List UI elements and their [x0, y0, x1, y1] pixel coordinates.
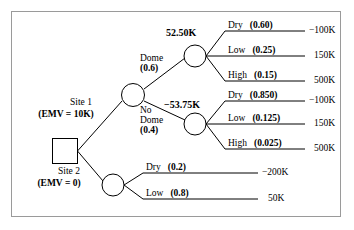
dome-branch-prob: (0.6) — [140, 64, 163, 74]
nodome-payoff-low: 150K — [314, 119, 335, 129]
dome-outcome-dry-prob: (0.60) — [250, 21, 273, 31]
nodome-outcome-high-prob: (0.025) — [254, 139, 282, 149]
decision-tree-figure: Site 1 (EMV = 10K) Site 2 (EMV = 0) Dome… — [0, 0, 354, 230]
site2-label: Site 2 — [34, 167, 104, 177]
site2-label-name: Site 2 — [58, 166, 80, 176]
dome-payoff-high: 500K — [314, 76, 335, 86]
site1-label: Site 1 — [41, 98, 121, 108]
nodome-payoff-high: 500K — [314, 144, 335, 154]
site2-payoff-low: 50K — [268, 194, 284, 204]
dome-outcome-dry-label: Dry (0.60) — [228, 21, 273, 31]
nodome-outcome-high-name: High — [228, 139, 247, 149]
site2-payoff-dry: −200K — [262, 168, 288, 178]
edge-nodome-high — [206, 124, 225, 149]
dome-payoff-dry: −100K — [309, 26, 335, 36]
nodome-outcome-dry-label: Dry (0.850) — [228, 91, 277, 101]
nodome-node-value-text: −53.75K — [164, 99, 200, 110]
site2-outcome-dry-label: Dry (0.2) — [146, 163, 186, 173]
site1-chance-circle — [122, 84, 145, 107]
nodome-node-value: −53.75K — [164, 100, 200, 111]
site1-emv: (EMV = 10K) — [11, 110, 121, 120]
edge-dome-high — [206, 56, 225, 81]
edge-dome-dry — [206, 31, 225, 56]
site2-outcome-dry-name: Dry — [146, 163, 161, 173]
nodome-payoff-low-text: 150K — [314, 118, 335, 128]
nodome-outcome-high-label: High (0.025) — [228, 139, 282, 149]
nodome-outcome-dry-name: Dry — [228, 91, 243, 101]
nodome-payoff-dry-text: −100K — [309, 95, 335, 105]
nodome-outcome-low-prob: (0.125) — [252, 114, 280, 124]
dome-outcome-low-label: Low (0.25) — [228, 46, 275, 56]
dome-chance-circle — [184, 45, 206, 67]
dome-payoff-dry-text: −100K — [309, 25, 335, 35]
edge-site2-dry — [124, 173, 143, 185]
nodome-outcome-low-label: Low (0.125) — [228, 114, 280, 124]
site2-payoff-low-text: 50K — [268, 193, 284, 203]
nodome-outcome-dry-prob: (0.850) — [250, 91, 278, 101]
site2-outcome-low-prob: (0.8) — [170, 189, 188, 199]
dome-outcome-high-name: High — [228, 71, 247, 81]
site2-emv: (EMV = 0) — [14, 179, 104, 189]
site2-chance-circle — [102, 174, 124, 196]
nodome-outcome-low-name: Low — [228, 114, 245, 124]
nodome-payoff-dry: −100K — [309, 96, 335, 106]
dome-outcome-low-prob: (0.25) — [252, 46, 275, 56]
dome-node-value-text: 52.50K — [166, 27, 196, 38]
site1-label-name: Site 1 — [70, 97, 92, 107]
site1-emv-value: (EMV = 10K) — [38, 109, 93, 119]
nodome-branch-label: No Dome (0.4) — [140, 106, 163, 136]
nodome-payoff-high-text: 500K — [314, 143, 335, 153]
dome-payoff-high-text: 500K — [314, 75, 335, 85]
nodome-branch-prob: (0.4) — [140, 126, 163, 136]
site2-outcome-low-name: Low — [146, 189, 163, 199]
nodome-chance-circle — [184, 113, 206, 135]
site2-payoff-dry-text: −200K — [262, 167, 288, 177]
edge-site2-low — [124, 185, 143, 199]
decision-square — [53, 139, 78, 164]
dome-outcome-high-label: High (0.15) — [228, 71, 277, 81]
dome-outcome-dry-name: Dry — [228, 21, 243, 31]
dome-outcome-high-prob: (0.15) — [254, 71, 277, 81]
site2-emv-value: (EMV = 0) — [37, 178, 80, 188]
dome-payoff-low: 150K — [314, 51, 335, 61]
dome-branch-label: Dome (0.6) — [140, 54, 163, 74]
dome-node-value: 52.50K — [166, 28, 196, 39]
dome-payoff-low-text: 150K — [314, 50, 335, 60]
edge-nodome-dry — [206, 101, 225, 124]
dome-outcome-low-name: Low — [228, 46, 245, 56]
site2-outcome-dry-prob: (0.2) — [168, 163, 186, 173]
site2-outcome-low-label: Low (0.8) — [146, 189, 189, 199]
